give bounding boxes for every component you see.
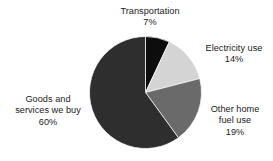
pie-label-other-home-fuel-use-text-line2: fuel use — [198, 115, 272, 126]
pie-label-transportation-text: Transportation — [104, 6, 196, 17]
pie-label-transportation-value: 7% — [104, 17, 196, 28]
pie-label-electricity-use: Electricity use 14% — [196, 43, 272, 66]
pie-label-goods-and-services-value: 60% — [4, 117, 92, 128]
pie-chart-figure: Transportation 7% Electricity use 14% Ot… — [0, 0, 273, 161]
pie-label-goods-and-services-text-line1: Goods and — [4, 94, 92, 105]
pie-label-electricity-use-value: 14% — [196, 54, 272, 65]
pie-label-goods-and-services-text-line2: services we buy — [4, 105, 92, 116]
pie-slices — [89, 37, 201, 149]
pie-label-other-home-fuel-use-value: 19% — [198, 127, 272, 138]
pie-label-other-home-fuel-use-text-line1: Other home — [198, 104, 272, 115]
pie-label-transportation: Transportation 7% — [104, 6, 196, 29]
pie-label-other-home-fuel-use: Other home fuel use 19% — [198, 104, 272, 138]
pie-label-goods-and-services: Goods and services we buy 60% — [4, 94, 92, 128]
pie-label-electricity-use-text: Electricity use — [196, 43, 272, 54]
